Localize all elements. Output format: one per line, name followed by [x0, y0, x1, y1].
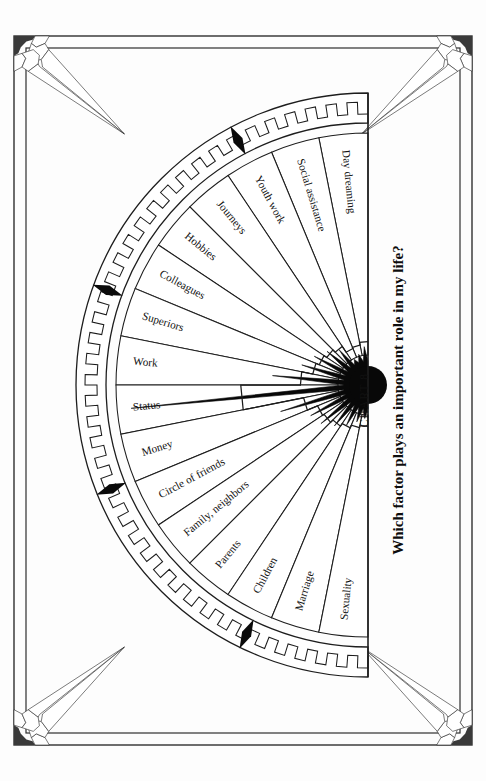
chart-number-label: CHART 8 — [358, 373, 370, 427]
page-title: Which factor plays an important role in … — [390, 245, 406, 554]
scanned-page: Day dreamingSocial assistanceYouth workJ… — [0, 0, 486, 781]
chart-caption-block: CHART 8 Which factor plays an important … — [0, 0, 486, 781]
